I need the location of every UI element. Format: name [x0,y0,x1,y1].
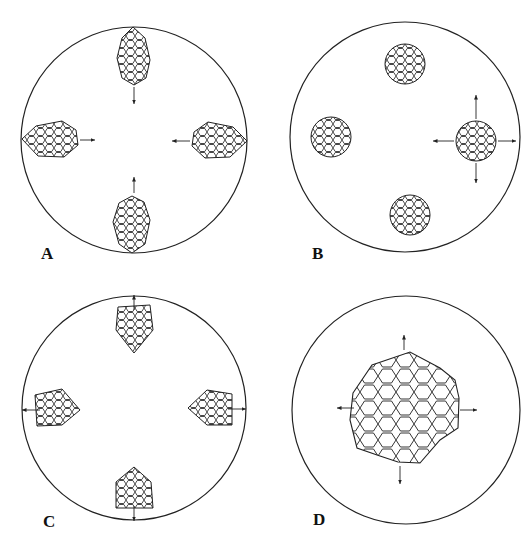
cell-cluster-bottom [116,467,153,521]
panel-label-d: D [313,510,325,530]
cell-cluster-bottom [113,177,150,253]
cell-cluster-right [456,121,496,161]
cell-cluster-bottom [390,195,430,235]
cell-cluster-top [117,27,150,104]
cell-cluster-top [385,44,425,84]
panel-label-a: A [41,244,53,264]
panel-label-b: B [312,244,323,264]
panel-b [290,22,520,252]
panel-label-c: C [43,512,55,532]
panel-d [292,296,520,524]
cell-cluster-top [116,295,153,353]
cell-cluster-left [311,117,351,157]
figure-canvas [0,0,530,539]
cell-cluster-left [22,389,80,426]
central-cell-mass [350,352,459,463]
panel-a [21,27,247,253]
cell-cluster-right [172,122,247,158]
cell-cluster-left [22,121,95,157]
panel-c [22,295,246,521]
cell-cluster-right [188,390,246,425]
